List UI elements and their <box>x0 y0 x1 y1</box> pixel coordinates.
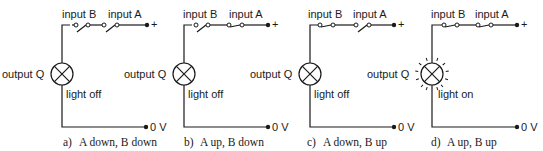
switch-a-open <box>102 23 119 32</box>
light-state-label: light off <box>314 88 350 100</box>
zero-volt-label: 0 V <box>272 121 289 133</box>
zero-volt-terminal <box>144 125 148 129</box>
output-q-label: output Q <box>250 68 293 80</box>
and-gate-switch-diagram: input B input A + output Q light off <box>0 0 543 151</box>
left-wire <box>62 25 70 63</box>
input-a-label: input A <box>229 8 263 20</box>
caption-text: A up, B up <box>447 136 497 149</box>
switch-b-open <box>194 23 210 32</box>
caption-letter: c) <box>307 136 316 149</box>
switch-b-closed <box>442 23 459 27</box>
input-b-label: input B <box>183 8 217 20</box>
caption-text: A up, B down <box>200 136 264 149</box>
input-b-label: input B <box>308 8 342 20</box>
switch-a-closed <box>476 23 493 27</box>
lamp-off-icon <box>51 63 73 85</box>
light-state-label: light on <box>438 88 473 100</box>
input-b-label: input B <box>62 8 96 20</box>
plus-label: + <box>398 18 404 30</box>
light-state-label: light off <box>66 88 102 100</box>
caption-text: A down, B up <box>323 136 387 149</box>
input-a-label: input A <box>353 8 387 20</box>
left-wire <box>184 25 192 63</box>
output-q-label: output Q <box>124 68 167 80</box>
lamp-off-icon <box>299 63 321 85</box>
zero-volt-label: 0 V <box>521 121 538 133</box>
output-q-label: output Q <box>367 68 410 80</box>
zero-volt-terminal <box>392 125 396 129</box>
switch-b-closed <box>318 23 335 27</box>
plus-label: + <box>272 18 278 30</box>
caption-letter: a) <box>63 136 72 149</box>
caption-letter: d) <box>431 136 441 149</box>
caption-text: A down, B down <box>79 136 157 149</box>
input-b-label: input B <box>431 8 465 20</box>
zero-volt-label: 0 V <box>150 121 167 133</box>
switch-a-open <box>354 23 371 32</box>
plus-terminal <box>515 23 519 27</box>
input-a-label: input A <box>475 8 509 20</box>
plus-terminal <box>266 23 270 27</box>
light-state-label: light off <box>188 88 224 100</box>
caption-letter: b) <box>184 136 194 149</box>
zero-volt-terminal <box>266 125 270 129</box>
lamp-off-icon <box>173 63 195 85</box>
plus-label: + <box>521 18 527 30</box>
output-q-label: output Q <box>2 68 45 80</box>
left-wire <box>310 25 318 63</box>
switch-a-closed <box>227 23 244 27</box>
zero-volt-label: 0 V <box>398 121 415 133</box>
plus-terminal <box>145 23 149 27</box>
switch-b-open <box>72 23 90 32</box>
plus-terminal <box>392 23 396 27</box>
input-a-label: input A <box>108 8 142 20</box>
plus-label: + <box>151 18 157 30</box>
zero-volt-terminal <box>515 125 519 129</box>
left-wire <box>432 25 442 63</box>
